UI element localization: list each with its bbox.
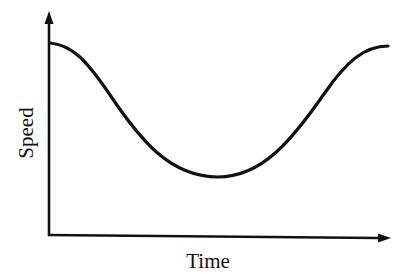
x-axis-arrow-icon (378, 234, 391, 243)
speed-time-chart: Speed Time (0, 0, 405, 275)
x-axis-label: Time (186, 249, 230, 273)
x-axis (48, 235, 378, 238)
y-axis-arrow-icon (45, 11, 54, 24)
y-axis-label: Speed (14, 107, 38, 159)
speed-curve (50, 43, 388, 177)
